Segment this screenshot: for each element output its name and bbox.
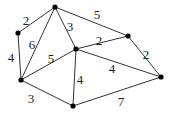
edge-weight-label: 5 xyxy=(48,51,55,66)
edge-weight-label: 2 xyxy=(96,33,103,48)
edge-weight-label: 3 xyxy=(28,91,35,106)
graph-node-A xyxy=(52,4,57,9)
weighted-graph: 263545244372 xyxy=(0,0,177,116)
edge-weight-label: 2 xyxy=(143,47,150,62)
graph-node-D xyxy=(73,46,78,51)
edge-weight-label: 4 xyxy=(109,61,116,76)
graph-node-G xyxy=(70,103,75,108)
edge-weight-label: 3 xyxy=(67,19,74,34)
graph-node-B xyxy=(15,30,20,35)
edge-D-G xyxy=(73,49,76,106)
edge-weight-label: 2 xyxy=(23,13,30,28)
edge-weight-label: 4 xyxy=(77,72,84,87)
edge-B-C xyxy=(18,33,21,80)
edge-weight-label: 4 xyxy=(8,50,15,65)
edge-weight-label: 5 xyxy=(94,7,101,22)
graph-node-F xyxy=(158,74,163,79)
edge-weight-label: 6 xyxy=(29,37,36,52)
graph-node-C xyxy=(18,77,23,82)
graph-node-E xyxy=(125,33,130,38)
edge-weight-label: 7 xyxy=(118,94,125,109)
